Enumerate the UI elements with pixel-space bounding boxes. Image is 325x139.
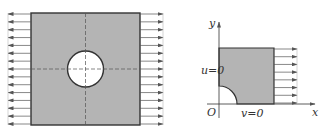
quarter-traction-arrows	[274, 49, 297, 103]
y-axis-label: y	[208, 17, 216, 30]
diagram-canvas: y u=0 O v=0 x	[0, 0, 325, 139]
v-boundary-label: v=0	[241, 107, 263, 120]
right-traction-arrows	[140, 14, 163, 124]
quarter-plate	[219, 48, 274, 104]
u-boundary-label: u=0	[201, 64, 224, 77]
quarter-model: y u=0 O v=0 x	[201, 17, 319, 120]
left-traction-arrows	[8, 14, 31, 124]
full-plate-model	[8, 13, 163, 125]
origin-label: O	[207, 106, 216, 119]
x-axis-label: x	[312, 106, 319, 119]
